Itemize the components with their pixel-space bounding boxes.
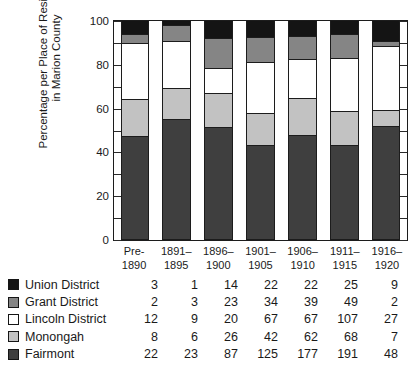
legend-table-row: Lincoln District12920676710727 (8, 311, 408, 328)
legend-table-row: Monongah86264262687 (8, 328, 408, 345)
table-cell-value: 1 (168, 278, 208, 292)
y-tick-label: 20 (96, 190, 109, 202)
table-cell-value: 6 (168, 330, 208, 344)
bar-segment-monongah (331, 112, 358, 146)
legend-entry[interactable]: Lincoln District (8, 312, 128, 326)
bar-segment-fairmont (289, 136, 316, 240)
table-cell-value: 8 (128, 330, 168, 344)
y-tick-major (400, 240, 407, 241)
table-cell-value: 67 (248, 312, 288, 326)
stacked-bar[interactable] (122, 21, 149, 240)
table-cell-value: 87 (208, 347, 248, 361)
bar-segment-fairmont (122, 137, 149, 239)
table-cell-value: 107 (328, 312, 368, 326)
bar-segment-lincoln-district (163, 42, 190, 89)
bar-segment-monongah (247, 114, 274, 146)
bar-segment-lincoln-district (373, 47, 400, 111)
x-axis-tick-label: Pre- 1890 (113, 245, 155, 272)
legend-entry[interactable]: Monongah (8, 330, 128, 344)
table-cell-value: 23 (208, 295, 248, 309)
x-axis-tick-label: 1906– 1910 (282, 245, 324, 272)
table-cell-value: 48 (368, 347, 408, 361)
table-cell-value: 12 (128, 312, 168, 326)
table-cell-value: 34 (248, 295, 288, 309)
stacked-bar[interactable] (373, 21, 400, 240)
y-tick-label: 80 (96, 59, 109, 71)
legend-entry[interactable]: Grant District (8, 295, 128, 309)
bar-segment-grant-district (163, 26, 190, 42)
table-cell-value: 49 (328, 295, 368, 309)
bar-segment-lincoln-district (331, 59, 358, 112)
table-cell-value: 177 (288, 347, 328, 361)
legend-table-row: Union District31142222259 (8, 276, 408, 293)
bar-segment-fairmont (331, 146, 358, 240)
legend-swatch-icon (8, 314, 19, 325)
stacked-bar[interactable] (247, 21, 274, 240)
y-tick-label: 100 (90, 15, 109, 27)
y-tick-label: 0 (103, 234, 109, 246)
value-row: 22238712517719148 (128, 347, 408, 361)
bar-segment-lincoln-district (247, 63, 274, 114)
bar-segment-grant-district (205, 39, 232, 69)
legend-swatch-icon (8, 297, 19, 308)
bar-segment-lincoln-district (122, 44, 149, 100)
table-cell-value: 22 (128, 347, 168, 361)
table-cell-value: 22 (248, 278, 288, 292)
table-cell-value: 125 (248, 347, 288, 361)
table-cell-value: 191 (328, 347, 368, 361)
value-row: 23233439492 (128, 295, 408, 309)
bar-column (156, 21, 198, 240)
table-cell-value: 25 (328, 278, 368, 292)
legend-entry[interactable]: Union District (8, 278, 128, 292)
bar-column (365, 21, 407, 240)
bar-column (281, 21, 323, 240)
x-axis-tick-label: 1896– 1900 (197, 245, 239, 272)
legend-label: Fairmont (25, 347, 74, 361)
bar-segment-union-district (331, 21, 358, 35)
table-cell-value: 42 (248, 330, 288, 344)
table-cell-value: 14 (208, 278, 248, 292)
table-cell-value: 2 (128, 295, 168, 309)
legend-label: Monongah (25, 330, 84, 344)
stacked-bar[interactable] (289, 21, 316, 240)
table-cell-value: 9 (368, 278, 408, 292)
bar-segment-union-district (122, 21, 149, 35)
y-axis-title: Percentage per Place of Residence in Mar… (30, 0, 70, 166)
table-cell-value: 3 (128, 278, 168, 292)
legend-label: Union District (25, 278, 99, 292)
bar-segment-union-district (373, 21, 400, 42)
bar-segment-lincoln-district (205, 69, 232, 95)
table-cell-value: 23 (168, 347, 208, 361)
legend-swatch-icon (8, 279, 19, 290)
legend-entry[interactable]: Fairmont (8, 347, 128, 361)
bar-segment-grant-district (122, 35, 149, 44)
bar-segment-fairmont (205, 128, 232, 240)
bar-segment-grant-district (247, 38, 274, 64)
bar-segment-monongah (373, 111, 400, 127)
y-tick-major (114, 240, 121, 241)
value-row: 31142222259 (128, 278, 408, 292)
bar-column (114, 21, 156, 240)
bar-segment-monongah (205, 94, 232, 128)
legend-swatch-icon (8, 349, 19, 360)
bar-group (114, 21, 407, 240)
plot-area: 020406080100 (113, 20, 408, 241)
stacked-bar[interactable] (205, 21, 232, 240)
x-axis-tick-label: 1901– 1905 (239, 245, 281, 272)
table-cell-value: 67 (288, 312, 328, 326)
bar-column (240, 21, 282, 240)
bar-segment-grant-district (331, 35, 358, 59)
table-cell-value: 68 (328, 330, 368, 344)
value-row: 86264262687 (128, 330, 408, 344)
legend-table-row: Grant District23233439492 (8, 293, 408, 310)
stacked-bar[interactable] (331, 21, 358, 240)
stacked-bar[interactable] (163, 21, 190, 240)
x-axis-tick-label: 1916– 1920 (366, 245, 408, 272)
legend-swatch-icon (8, 331, 19, 342)
x-axis-tick-label: 1891– 1895 (155, 245, 197, 272)
table-cell-value: 62 (288, 330, 328, 344)
table-cell-value: 20 (208, 312, 248, 326)
bar-segment-grant-district (289, 37, 316, 60)
bar-column (323, 21, 365, 240)
chart-figure: Percentage per Place of Residence in Mar… (0, 0, 416, 375)
